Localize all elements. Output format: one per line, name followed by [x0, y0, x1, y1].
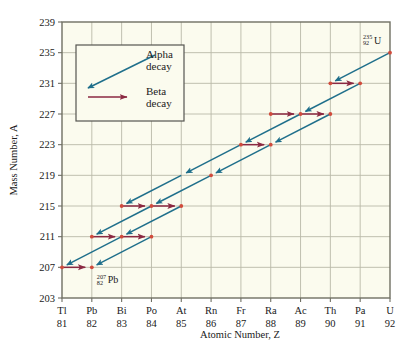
nuclide-point — [209, 173, 213, 177]
nuclide-point — [299, 112, 303, 116]
x-axis-number-label: 86 — [206, 318, 217, 329]
nuclide-point — [179, 204, 183, 208]
x-axis-element-label: At — [176, 305, 187, 316]
annotation-element-symbol: U — [374, 35, 382, 46]
chart-svg: 203207211215219223227231235239 Tl81Pb82B… — [0, 0, 414, 353]
y-axis-tick-label: 227 — [39, 109, 55, 120]
x-axis-number-label: 90 — [325, 318, 336, 329]
x-axis-element-label: Ac — [294, 305, 307, 316]
x-axis-element-label: Pb — [86, 305, 97, 316]
x-axis-element-label: U — [386, 305, 394, 316]
x-axis-element-label: Tl — [57, 305, 66, 316]
nuclide-point — [358, 81, 362, 85]
nuclide-point — [269, 143, 273, 147]
x-axis-element-label: Po — [146, 305, 157, 316]
y-axis-tick-label: 231 — [39, 78, 55, 89]
annotation-atomic-number: 82 — [97, 279, 103, 286]
nuclide-point — [328, 81, 332, 85]
nuclide-point — [90, 265, 94, 269]
y-axis-tick-label: 215 — [39, 201, 55, 212]
y-axis-tick-label: 239 — [39, 17, 55, 28]
x-axis-number-label: 87 — [236, 318, 247, 329]
y-axis-tick-label: 207 — [39, 262, 55, 273]
y-axis-tick-label: 203 — [39, 293, 55, 304]
y-axis-title: Mass Number, A — [8, 124, 19, 195]
nuclide-point — [150, 235, 154, 239]
nuclide-point — [269, 112, 273, 116]
x-axis-number-label: 92 — [385, 318, 396, 329]
y-axis-tick-label: 235 — [39, 47, 55, 58]
x-axis-number-label: 84 — [146, 318, 157, 329]
annotation-atomic-number: 92 — [363, 39, 369, 46]
annotation-element-symbol: Pb — [108, 274, 119, 285]
x-axis-number-label: 89 — [295, 318, 306, 329]
y-axis-tick-label: 219 — [39, 170, 55, 181]
nuclide-point — [150, 204, 154, 208]
nuclide-point — [120, 204, 124, 208]
nuclide-point — [328, 112, 332, 116]
nuclide-point — [60, 265, 64, 269]
x-axis-number-label: 83 — [116, 318, 127, 329]
nuclide-point — [239, 143, 243, 147]
x-axis-number-label: 82 — [87, 318, 98, 329]
legend: Alpha decay Beta decay — [76, 45, 184, 121]
x-axis-element-label: Pa — [355, 305, 366, 316]
legend-beta-label-line2: decay — [146, 97, 172, 109]
legend-alpha-label-line1: Alpha — [146, 48, 173, 60]
x-axis-element-label: Bi — [117, 305, 127, 316]
x-axis-element-label: Ra — [265, 305, 277, 316]
x-axis-number-label: 88 — [265, 318, 276, 329]
nuclide-point — [388, 51, 392, 55]
nuclide-point — [120, 235, 124, 239]
x-axis-title: Atomic Number, Z — [200, 329, 280, 340]
legend-alpha-label-line2: decay — [146, 60, 172, 72]
x-axis-number-label: 85 — [176, 318, 187, 329]
y-axis-tick-label: 223 — [39, 139, 55, 150]
x-axis-number-label: 81 — [57, 318, 68, 329]
x-axis-element-label: Fr — [236, 305, 246, 316]
decay-series-chart-figure: 203207211215219223227231235239 Tl81Pb82B… — [0, 0, 414, 353]
x-axis-number-label: 91 — [355, 318, 366, 329]
nuclide-point — [90, 235, 94, 239]
y-axis-tick-label: 211 — [40, 231, 55, 242]
nuclide-annotation: 20782Pb — [97, 273, 119, 286]
x-axis-element-label: Th — [325, 305, 337, 316]
legend-beta-label-line1: Beta — [146, 85, 166, 97]
x-axis-element-label: Rn — [205, 305, 218, 316]
